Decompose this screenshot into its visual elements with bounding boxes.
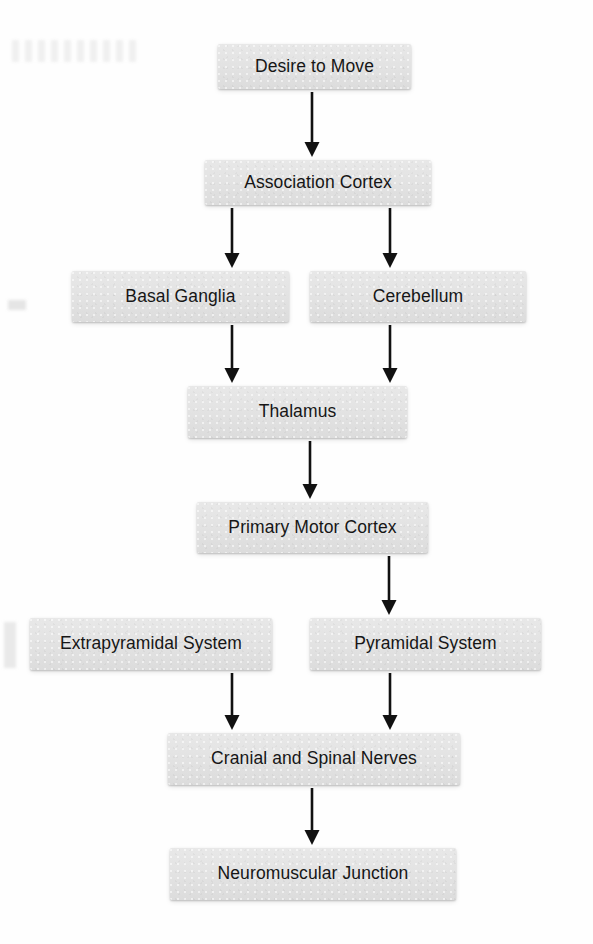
node-label: Extrapyramidal System: [60, 634, 242, 653]
arrowhead-icon: [382, 600, 397, 615]
node-label: Cranial and Spinal Nerves: [211, 749, 417, 768]
edge-association-cortex-to-basal-ganglia: [225, 208, 240, 268]
edge-cranial-spinal-nerves-to-neuromuscular-junction: [305, 788, 320, 845]
node-pyramidal-system[interactable]: Pyramidal System: [310, 618, 541, 670]
edge-cerebellum-to-thalamus: [383, 325, 398, 383]
node-label: Basal Ganglia: [125, 287, 235, 306]
node-extrapyramidal-system[interactable]: Extrapyramidal System: [30, 618, 272, 670]
edge-layer: [0, 0, 593, 944]
arrowhead-icon: [383, 715, 398, 730]
arrowhead-icon: [225, 253, 240, 268]
arrowhead-icon: [303, 484, 318, 499]
edge-basal-ganglia-to-thalamus: [225, 325, 240, 383]
node-label: Pyramidal System: [354, 634, 497, 653]
arrowhead-icon: [225, 715, 240, 730]
node-label: Cerebellum: [373, 287, 463, 306]
edge-thalamus-to-primary-motor-cortex: [303, 441, 318, 499]
node-label: Neuromuscular Junction: [218, 864, 409, 883]
node-label: Thalamus: [259, 402, 337, 421]
edge-pyramidal-system-to-cranial-spinal-nerves: [383, 673, 398, 730]
arrowhead-icon: [225, 368, 240, 383]
node-label: Association Cortex: [244, 173, 392, 192]
node-primary-motor-cortex[interactable]: Primary Motor Cortex: [197, 502, 428, 553]
node-label: Primary Motor Cortex: [228, 518, 396, 537]
node-desire-to-move[interactable]: Desire to Move: [218, 44, 411, 89]
node-association-cortex[interactable]: Association Cortex: [205, 160, 431, 205]
scan-artifact-left-lower: [4, 622, 16, 668]
edge-desire-to-move-to-association-cortex: [305, 92, 320, 157]
node-cranial-spinal-nerves[interactable]: Cranial and Spinal Nerves: [168, 733, 460, 785]
arrowhead-icon: [305, 830, 320, 845]
arrowhead-icon: [383, 368, 398, 383]
arrowhead-icon: [383, 253, 398, 268]
scan-artifact-top-left: [12, 40, 137, 62]
edge-extrapyramidal-system-to-cranial-spinal-nerves: [225, 673, 240, 730]
node-thalamus[interactable]: Thalamus: [188, 386, 407, 438]
scan-artifact-left-mid: [8, 300, 26, 310]
arrowhead-icon: [305, 142, 320, 157]
edge-association-cortex-to-cerebellum: [383, 208, 398, 268]
node-basal-ganglia[interactable]: Basal Ganglia: [72, 271, 289, 322]
node-neuromuscular-junction[interactable]: Neuromuscular Junction: [170, 848, 456, 900]
node-cerebellum[interactable]: Cerebellum: [310, 271, 526, 322]
node-label: Desire to Move: [255, 57, 374, 76]
flowchart-canvas: Desire to MoveAssociation CortexBasal Ga…: [0, 0, 593, 944]
edge-primary-motor-cortex-to-pyramidal-system: [382, 556, 397, 615]
